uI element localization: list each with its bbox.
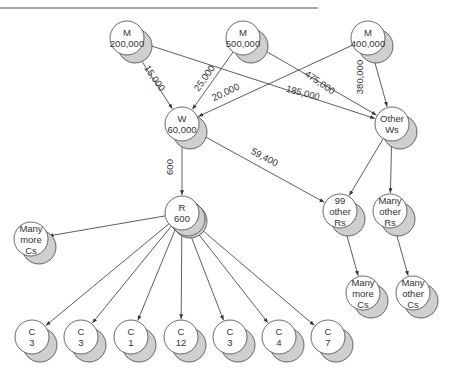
node-m3: M400,000 <box>351 21 393 63</box>
node-rmany: ManyotherRs <box>373 194 415 236</box>
node-c2: C3 <box>64 320 106 362</box>
node-label: Cs <box>407 299 419 310</box>
node-label: 3 <box>29 337 34 348</box>
node-c4: C12 <box>164 320 206 362</box>
node-label: 500,000 <box>226 38 260 49</box>
node-c1: C3 <box>15 320 57 362</box>
node-label: 3 <box>227 337 232 348</box>
edge-label: 15,000 <box>142 63 168 93</box>
node-label: Rs <box>334 217 346 228</box>
edge-r-to-c7 <box>195 224 314 325</box>
node-label: 60,000 <box>167 124 196 135</box>
edge-r-to-c2 <box>92 226 171 323</box>
node-m1: M200,000 <box>110 21 152 63</box>
edge-w-to-r99 <box>197 132 324 202</box>
node-label: 12 <box>176 337 187 348</box>
node-c5: C3 <box>213 320 255 362</box>
node-label: Cs <box>25 245 37 256</box>
edge-r-to-c6 <box>192 226 267 322</box>
node-ow: OtherWs <box>375 107 417 149</box>
edge-label: 20,000 <box>210 81 241 103</box>
node-label: M <box>239 27 247 38</box>
edge-ow-to-r99 <box>349 139 383 196</box>
node-label: Cs <box>357 299 369 310</box>
node-label: R <box>179 202 186 213</box>
edge-r-to-c3 <box>138 229 176 321</box>
node-label: M <box>364 27 372 38</box>
edge-r-to-c1 <box>46 224 169 326</box>
node-label: W <box>178 113 187 124</box>
node-r99: 99otherRs <box>323 194 365 236</box>
node-label: 600 <box>174 213 190 224</box>
node-label: Many <box>19 223 42 234</box>
flow-diagram: M200,000M500,000M400,000W60,000OtherWsR6… <box>0 0 458 375</box>
edge-label: 185,000 <box>285 83 321 103</box>
node-c6: C4 <box>262 320 304 362</box>
node-label: Ws <box>385 124 399 135</box>
node-label: other <box>379 206 401 217</box>
node-m2: M500,000 <box>226 21 268 63</box>
node-label: Rs <box>384 217 396 228</box>
edge-ow-to-rmany <box>390 141 391 193</box>
edge-r-to-c4 <box>181 230 182 319</box>
edge-label: 600 <box>164 159 175 175</box>
node-cmore_right: ManymoreCs <box>346 276 388 318</box>
node-label: 99 <box>335 195 346 206</box>
node-label: other <box>329 206 351 217</box>
node-label: C <box>128 326 135 337</box>
node-label: C <box>227 326 234 337</box>
node-label: C <box>178 326 185 337</box>
node-label: Many <box>401 277 424 288</box>
node-r: R600 <box>165 196 207 238</box>
node-label: 7 <box>325 337 330 348</box>
node-label: 1 <box>128 337 133 348</box>
node-label: more <box>352 288 374 299</box>
node-c7: C7 <box>311 320 353 362</box>
node-label: Other <box>380 113 404 124</box>
edge-label: 25,000 <box>191 63 217 93</box>
node-label: Many <box>378 195 401 206</box>
node-label: other <box>402 288 424 299</box>
node-label: M <box>123 27 131 38</box>
node-c3: C1 <box>114 320 156 362</box>
node-label: 400,000 <box>351 38 385 49</box>
edge-r-to-c5 <box>188 229 223 320</box>
node-label: C <box>276 326 283 337</box>
node-label: 4 <box>276 337 281 348</box>
node-label: 200,000 <box>110 38 144 49</box>
edge-label: 380,000 <box>354 60 365 94</box>
node-cmore_left: ManymoreCs <box>14 222 56 264</box>
node-label: Many <box>351 277 374 288</box>
edge-label: 59,400 <box>249 145 280 168</box>
node-cother: ManyotherCs <box>396 276 438 318</box>
node-label: 3 <box>78 337 83 348</box>
node-label: C <box>78 326 85 337</box>
edge-r-to-cmore_left <box>49 216 166 236</box>
node-label: C <box>29 326 36 337</box>
nodes-layer: M200,000M500,000M400,000W60,000OtherWsR6… <box>14 21 438 362</box>
node-w: W60,000 <box>165 107 207 149</box>
edge-m3-to-w <box>198 45 352 116</box>
node-label: C <box>325 326 332 337</box>
node-label: more <box>20 234 42 245</box>
